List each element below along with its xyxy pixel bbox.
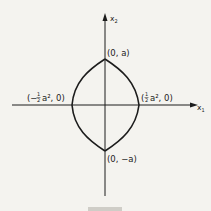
- svg-text:2: 2: [37, 97, 40, 103]
- boundary-curve-upper-left: [72, 59, 105, 105]
- boundary-curve-lower-right: [105, 105, 139, 151]
- x2-axis-arrow-icon: [103, 13, 108, 21]
- svg-text:a², 0): a², 0): [150, 93, 173, 103]
- svg-text:2: 2: [145, 97, 148, 103]
- boundary-curve-lower-left: [72, 105, 105, 151]
- label-right-point: ( 1 2 a², 0): [141, 91, 173, 103]
- caption-remnant: [88, 207, 122, 211]
- svg-text:(−: (−: [27, 93, 37, 103]
- x1-axis-label: x1: [197, 103, 205, 113]
- phase-diagram: x2 x1 (0, a) (0, −a) (− 1 2 a², 0) ( 1 2…: [0, 0, 211, 211]
- boundary-curve-upper-right: [105, 59, 139, 105]
- svg-text:(: (: [141, 93, 144, 103]
- x2-axis-label: x2: [110, 14, 118, 24]
- label-top-point: (0, a): [107, 48, 130, 58]
- svg-text:a², 0): a², 0): [42, 93, 65, 103]
- label-left-point: (− 1 2 a², 0): [27, 91, 65, 103]
- label-bottom-point: (0, −a): [107, 154, 137, 164]
